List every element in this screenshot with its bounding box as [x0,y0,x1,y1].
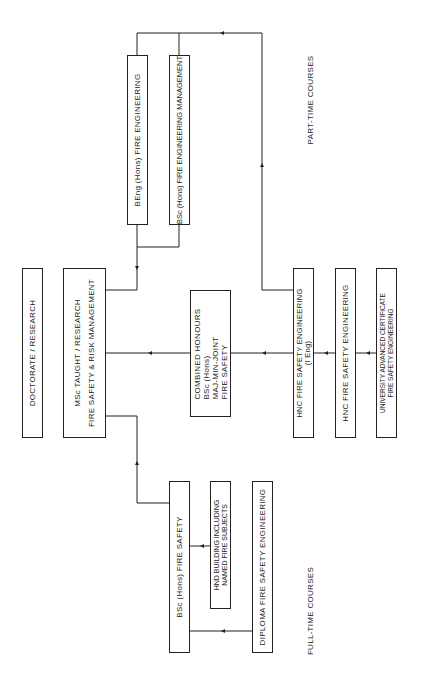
box-label: BSc (Hons) FIRE SAFETY [175,516,185,617]
box-label: DOCTORATE / RESEARCH [28,300,38,407]
msc-line-2: FIRE SAFETY & RISK MANAGEMENT [85,279,99,427]
bsc-fire-engineering-management-box: BSc (Hons) FIRE ENGINEERING MANAGEMENT [169,55,190,225]
box-label: DIPLOMA FIRE SAFETY ENGINEERING [258,489,268,646]
hnc-ieng-line-2: (I Eng) [304,288,312,417]
combined-honours-box: COMBINED HONOURS BSc (Hons) MAJ-MIN-JOIN… [190,290,231,417]
msc-box: MSc TAUGHT / RESEARCH FIRE SAFETY & RISK… [63,268,106,438]
box-label: HNC FIRE SAFETY ENGINEERING [341,284,351,421]
hnd-line-2: NAMED FIRE SUBJECTS [221,500,229,591]
hnc-box: HNC FIRE SAFETY ENGINEERING [335,268,356,438]
combined-line-3: MAJ-MIN-JOINT [211,308,220,399]
doctorate-research-box: DOCTORATE / RESEARCH [22,268,43,438]
bsc-fire-safety-box: BSc (Hons) FIRE SAFETY [169,481,190,653]
univ-line-2: FIRE SAFETY ENGINEERING [387,293,395,413]
hnc-ieng-box: HNC FIRE SAFETY ENGINEERING (I Eng) [293,268,314,438]
combined-line-2: BSc (Hons) [202,308,211,399]
box-label: BSc (Hons) FIRE ENGINEERING MANAGEMENT [175,56,185,224]
university-certificate-box: UNIVERSITY ADVANCED CERTIFICATE FIRE SAF… [376,268,397,438]
msc-line-1: MSc TAUGHT / RESEARCH [71,279,85,427]
combined-line-4: FIRE SAFETY [220,308,229,399]
box-label: BEng (Hons) FIRE ENGINEERING [133,74,143,207]
hnd-building-box: HND BUILDING INCLUDING NAMED FIRE SUBJEC… [210,481,231,609]
diploma-box: DIPLOMA FIRE SAFETY ENGINEERING [252,481,273,653]
combined-line-1: COMBINED HONOURS [193,308,202,399]
univ-line-1: UNIVERSITY ADVANCED CERTIFICATE [379,293,387,413]
hnd-line-1: HND BUILDING INCLUDING [213,500,221,591]
beng-fire-engineering-box: BEng (Hons) FIRE ENGINEERING [127,55,148,225]
